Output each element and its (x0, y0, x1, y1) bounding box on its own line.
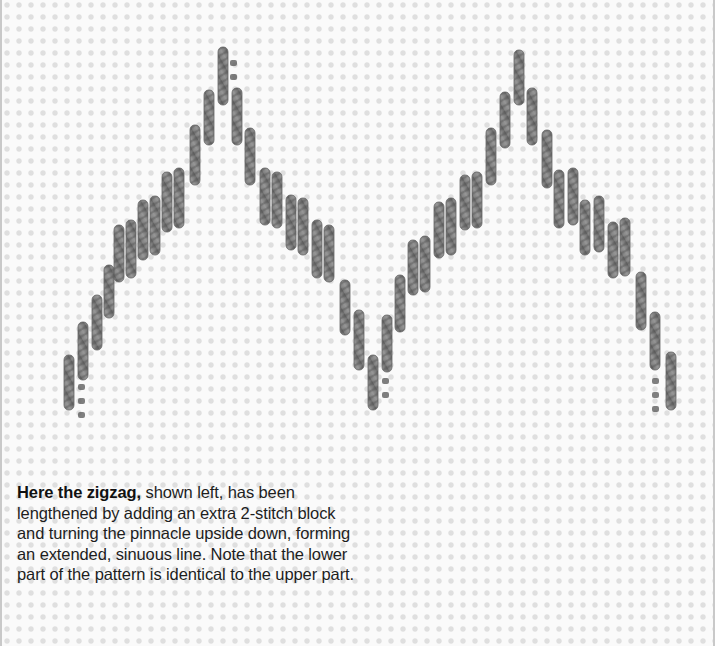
stitch (460, 175, 470, 230)
stitch (500, 92, 510, 148)
stitch (408, 240, 418, 295)
stitch (64, 355, 74, 410)
canvas-hole-mark (230, 74, 237, 80)
stitch (286, 195, 296, 250)
stitch (190, 125, 200, 185)
stitch (104, 265, 114, 318)
stitch (114, 225, 124, 282)
stitch (446, 198, 456, 255)
canvas-hole-mark (382, 392, 389, 398)
stitch (568, 168, 578, 225)
stitch (218, 47, 228, 105)
stitch (368, 355, 378, 410)
canvas-hole-mark (78, 412, 85, 418)
canvas-hole-mark (78, 398, 85, 404)
stitch (608, 222, 618, 278)
stitch (542, 130, 552, 188)
stitch (382, 315, 392, 372)
canvas-hole-mark (230, 60, 237, 66)
stitch-group (64, 47, 676, 410)
stitch (150, 196, 160, 255)
stitch (650, 312, 660, 370)
stitch (395, 275, 405, 332)
stitch (554, 170, 564, 228)
stitch (126, 220, 136, 278)
stitch (472, 172, 482, 228)
stitch (420, 236, 430, 292)
stitch (666, 352, 676, 410)
stitch (174, 168, 184, 228)
stitch (340, 280, 350, 335)
stitch (312, 220, 322, 278)
stitch (354, 310, 364, 370)
stitch (298, 198, 308, 255)
canvas-hole-mark (652, 392, 659, 398)
stitch (580, 200, 590, 255)
zigzag-stitch-illustration (2, 0, 715, 470)
stitch (594, 196, 604, 252)
stitch (260, 168, 270, 225)
stitch (527, 88, 537, 145)
caption-lead: Here the zigzag, (17, 483, 141, 501)
stitch (138, 200, 148, 260)
canvas-hole-mark (78, 384, 85, 390)
stitch (272, 172, 282, 228)
stitch (620, 218, 630, 276)
stitch (78, 322, 88, 380)
stitch (324, 225, 334, 282)
canvas-hole-mark (652, 406, 659, 412)
stitch (486, 128, 496, 185)
stitch (636, 272, 646, 330)
stitch (245, 128, 255, 185)
stitch (434, 202, 444, 258)
stitch (92, 295, 102, 350)
stitch (162, 172, 172, 232)
stitch (232, 88, 242, 145)
canvas-hole-mark (652, 378, 659, 384)
caption: Here the zigzag, shown left, has been le… (17, 482, 362, 585)
page: Here the zigzag, shown left, has been le… (0, 0, 715, 646)
stitch (514, 50, 524, 105)
stitch (204, 90, 214, 145)
canvas-hole-mark (382, 378, 389, 384)
